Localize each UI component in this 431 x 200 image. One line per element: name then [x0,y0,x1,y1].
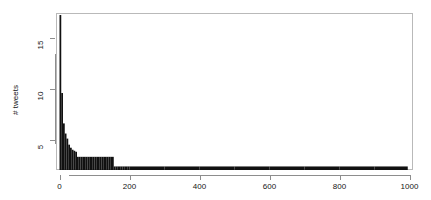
x-axis-tick-label: 400 [193,182,206,191]
x-axis-tick [130,175,131,180]
histogram-bar [70,148,72,170]
x-axis-line [69,175,410,176]
histogram-bar [107,157,109,170]
x-axis-tick [410,175,411,180]
histogram-bar [75,152,77,170]
histogram-bar [375,166,393,170]
x-axis-tick-label: 1000 [401,182,419,191]
histogram-bar [68,145,70,170]
histogram-bar [322,166,340,170]
y-axis-title: # tweets [8,60,22,140]
histogram-bar [235,166,253,170]
x-axis-tick-label: 800 [333,182,346,191]
histogram-bar [63,123,65,170]
histogram-figure: 51015 # tweets 02004006008001000 [0,0,431,200]
histogram-bar [100,157,102,170]
histogram-bar [81,157,83,170]
y-axis-tick-label: 5 [34,135,48,145]
histogram-bar [84,157,86,170]
histogram-bar [130,166,148,170]
histogram-bar [82,157,84,170]
histogram-bar [340,166,358,170]
x-axis-tick-label: 200 [123,182,136,191]
histogram-bar [287,166,305,170]
histogram-bar [61,93,63,170]
histogram-bar [95,157,97,170]
histogram-bar [60,15,62,170]
x-axis-tick-label: 0 [57,182,61,191]
histogram-bar [65,134,67,170]
histogram-bar [93,157,95,170]
y-axis-tick [50,38,55,39]
histogram-bar [91,157,93,170]
histogram-bar [217,166,235,170]
x-axis-tick [60,175,61,180]
histogram-bar [392,166,406,170]
histogram-bar [67,139,69,170]
histogram-bar [88,157,90,170]
histogram-bar [79,157,81,170]
histogram-bar [89,157,91,170]
histogram-bar [305,166,323,170]
histogram-bar [72,150,74,170]
y-axis-title-label: # tweets [11,85,20,115]
histogram-bar [182,166,200,170]
y-axis-tick [50,89,55,90]
x-axis-tick [270,175,271,180]
y-axis-line [55,54,56,144]
y-axis-tick-label: 10 [34,84,48,94]
histogram-bar [270,166,288,170]
histogram-bar [98,157,100,170]
histogram-bar [110,157,112,170]
histogram-bar [86,157,88,170]
histogram-bar [119,166,121,170]
histogram-bar [406,166,408,170]
histogram-bar [147,166,165,170]
histogram-bar [103,157,105,170]
histogram-bar [128,166,130,170]
histogram-bar [77,157,79,170]
histogram-bar [126,166,128,170]
histogram-bar [112,157,114,170]
histogram-bar [357,166,375,170]
histogram-bar [102,157,104,170]
histogram-bar [116,166,118,170]
histogram-bar [121,166,123,170]
histogram-bar [114,166,116,170]
histogram-bar [252,166,270,170]
histogram-bar [96,157,98,170]
histogram-bar [200,166,218,170]
x-axis-tick-label: 600 [263,182,276,191]
histogram-bar [74,151,76,170]
histogram-bar [117,166,119,170]
x-axis-tick [200,175,201,180]
histogram-bar [123,166,125,170]
histogram-bar [105,157,107,170]
y-axis-tick [50,140,55,141]
histogram-bar [109,157,111,170]
plot-area [56,13,413,170]
histogram-bar [124,166,126,170]
y-axis-tick-label: 15 [34,33,48,43]
histogram-bars [56,13,413,170]
x-axis-tick [340,175,341,180]
histogram-bar [165,166,183,170]
